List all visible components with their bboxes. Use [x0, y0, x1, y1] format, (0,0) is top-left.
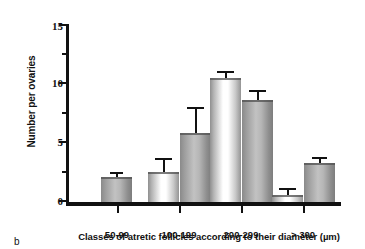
x-tick: [241, 206, 243, 213]
error-stem: [195, 107, 197, 133]
bar-top-edge: [180, 133, 211, 135]
error-bar-light-100-199: [148, 158, 179, 172]
bar-chart-figure: Number per ovaries 0 5 10 15 50-99 100-1…: [0, 0, 365, 249]
y-tick-minor: [62, 112, 66, 114]
y-tick-label: 0: [58, 195, 64, 207]
bar-top-edge: [148, 172, 179, 174]
x-tick: [179, 206, 181, 213]
error-cap: [187, 107, 204, 109]
error-cap: [312, 157, 327, 159]
y-tick-minor: [62, 53, 66, 55]
y-axis-line: [66, 24, 69, 202]
x-tick: [303, 206, 305, 213]
y-tick-minor: [62, 171, 66, 173]
error-cap: [279, 188, 296, 190]
panel-label: b: [14, 236, 20, 247]
error-bar-dark-over-300: [304, 157, 335, 163]
x-axis-line: [66, 202, 341, 206]
x-axis-title: Classes of atretic follicles according t…: [56, 231, 362, 242]
x-tick: [117, 206, 119, 213]
error-bar-light-200-299: [210, 71, 241, 78]
error-cap: [217, 71, 234, 73]
bar-dark-over-300: [304, 163, 335, 202]
bar-dark-50-99: [101, 177, 132, 202]
bar-dark-100-199: [180, 133, 211, 202]
bar-top-edge: [242, 100, 273, 102]
error-bar-dark-200-299: [242, 90, 273, 100]
y-tick-label: 15: [52, 20, 63, 32]
error-bar-dark-100-199: [180, 107, 211, 133]
y-tick-label: 5: [58, 136, 64, 148]
bar-light-200-299: [210, 78, 241, 202]
bar-top-edge: [210, 78, 241, 80]
error-stem: [163, 158, 165, 172]
bar-top-edge: [272, 195, 303, 197]
error-bar-dark-50-99: [101, 172, 132, 177]
bar-light-over-300: [272, 195, 303, 202]
bar-dark-200-299: [242, 100, 273, 202]
y-tick-label: 10: [52, 77, 63, 89]
bar-top-edge: [101, 177, 132, 179]
plot-area: 0 5 10 15 50-99 100-199 200-299 > 300: [69, 24, 341, 202]
y-axis-title: Number per ovaries: [26, 27, 37, 177]
bar-top-edge: [304, 163, 335, 165]
error-bar-light-over-300: [272, 188, 303, 195]
error-cap: [155, 158, 172, 160]
error-cap: [249, 90, 266, 92]
error-cap: [110, 172, 123, 174]
bar-light-100-199: [148, 172, 179, 202]
